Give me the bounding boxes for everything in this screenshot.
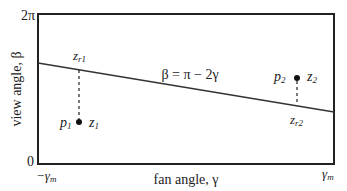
label-zr1: zr1 (72, 48, 86, 64)
point-p2 (294, 75, 300, 81)
label-zr2: zr2 (289, 112, 304, 128)
plot-frame (38, 14, 334, 164)
label-p1: p1 (59, 115, 72, 131)
x-tick-gamma-m: γm (322, 166, 334, 182)
line-equation-label: β = π − 2γ (161, 67, 218, 82)
point-p1 (76, 119, 82, 125)
x-axis-label: fan angle, γ (154, 172, 219, 187)
y-tick-2pi: 2π (21, 8, 35, 23)
y-tick-0: 0 (27, 154, 34, 169)
label-p2: p2 (273, 69, 286, 85)
sinogram-diagram: 2π 0 view angle, β −γm γm fan angle, γ β… (0, 0, 347, 191)
label-z2: z2 (306, 69, 317, 85)
x-tick-neg-gamma-m: −γm (36, 168, 57, 184)
y-axis-label: view angle, β (9, 51, 24, 126)
label-z1: z1 (88, 115, 99, 131)
